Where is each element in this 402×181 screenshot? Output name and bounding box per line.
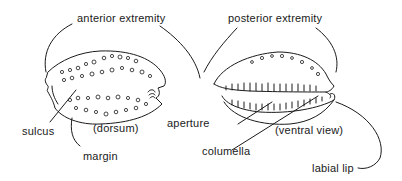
label-dorsum: (dorsum) bbox=[93, 123, 139, 134]
ventral-spots bbox=[251, 54, 320, 75]
label-sulcus: sulcus bbox=[22, 126, 54, 137]
dorsal-shell-outline bbox=[45, 51, 165, 124]
dorsal-aperture-teeth bbox=[148, 90, 155, 98]
shell-diagram bbox=[0, 0, 402, 181]
dorsal-spots bbox=[60, 54, 151, 116]
label-posterior-extremity: posterior extremity bbox=[228, 13, 322, 24]
label-labial-lip: labial lip bbox=[312, 163, 354, 174]
label-margin: margin bbox=[83, 151, 118, 162]
anterior-leader-left bbox=[45, 24, 72, 72]
label-aperture: aperture bbox=[167, 118, 210, 129]
anterior-leader-right bbox=[160, 26, 200, 78]
label-anterior-extremity: anterior extremity bbox=[77, 13, 166, 24]
label-columella: columella bbox=[202, 146, 250, 157]
label-ventral-view: (ventral view) bbox=[275, 125, 343, 136]
ventral-teeth bbox=[226, 83, 322, 110]
columella-leader bbox=[232, 96, 318, 150]
